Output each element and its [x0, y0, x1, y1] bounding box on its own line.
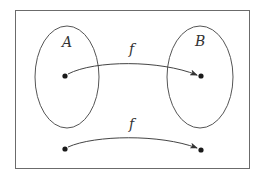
set-b-label: B [194, 33, 205, 49]
a-point [62, 73, 67, 78]
mapping-diagram: A B f f [0, 0, 263, 179]
set-a-label: A [60, 34, 72, 50]
b-point [198, 73, 203, 78]
bottom-left-point [62, 146, 67, 151]
outer-frame [16, 11, 250, 169]
arrow-f-bottom [68, 138, 197, 148]
arrow-f-top-label: f [128, 41, 137, 57]
bottom-right-point [198, 147, 203, 152]
arrow-f-bottom-label: f [128, 116, 137, 132]
arrow-f-top [68, 64, 197, 75]
